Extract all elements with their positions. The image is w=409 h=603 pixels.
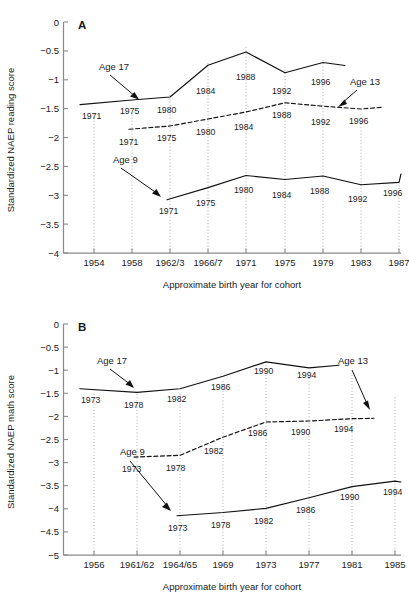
panel-a-label-age13: Age 13	[350, 76, 380, 87]
panel-b-ytick-3: −1.5	[40, 388, 59, 399]
panel-b-xtick-6: 1981	[341, 559, 362, 570]
panel-a-age9-label-4: 1988	[310, 186, 329, 196]
panel-b-series-age9	[177, 481, 401, 516]
panel-a-age13-label-3: 1984	[234, 122, 253, 132]
panel-a-x-ticks: 1954 1958 1962/3 1966/7 1971 1975 1979 1…	[83, 249, 409, 269]
panel-a-age13-label-4: 1988	[272, 110, 291, 120]
panel-b-ytick-9: −4.5	[40, 526, 59, 537]
panel-b-ytick-2: −1	[48, 365, 59, 376]
panel-a: Standardized NAEP reading score A 0 −0.5…	[0, 0, 409, 301]
panel-b-age17-label-3: 1986	[211, 382, 230, 392]
panel-a-pointlabels-age9: 1971 1975 1980 1984 1988 1992 1996	[159, 185, 402, 216]
panel-a-age9-label-3: 1984	[272, 190, 291, 200]
panel-b-xtick-7: 1985	[384, 559, 405, 570]
panel-a-age13-label-1: 1975	[157, 133, 176, 143]
panel-b-pointlabels-age9: 1973 1978 1982 1986 1990 1994	[168, 487, 402, 533]
panel-a-ytick-1: −0.5	[40, 45, 59, 56]
panel-b-xtick-2: 1964/65	[163, 559, 197, 570]
panel-b-ytick-10: −5	[48, 550, 59, 561]
panel-b-svg: Standardized NAEP math score B 0	[0, 302, 409, 603]
panel-a-xtick-8: 1987	[388, 257, 409, 268]
panel-a-label-age9: Age 9	[113, 154, 138, 165]
panel-a-age9-label-2: 1980	[234, 185, 253, 195]
panel-a-y-axis-title: Standardized NAEP reading score	[5, 68, 16, 213]
panel-b-age17-label-2: 1982	[167, 394, 186, 404]
panel-b-age17-label-4: 1990	[254, 366, 273, 376]
panel-a-age17-label-4: 1988	[236, 72, 255, 82]
panel-b: Standardized NAEP math score B 0	[0, 302, 409, 603]
panel-a-letter: A	[78, 19, 86, 31]
panel-b-xtick-0: 1956	[83, 559, 104, 570]
panel-a-age13-label-2: 1980	[196, 127, 215, 137]
panel-b-age9-label-3: 1986	[296, 505, 315, 515]
panel-a-age9-label-1: 1975	[196, 198, 215, 208]
panel-b-ytick-0: 0	[54, 319, 59, 330]
panel-b-age9-label-5: 1994	[383, 487, 402, 497]
panel-b-age13-label-2: 1982	[204, 446, 223, 456]
panel-b-pointlabels-age17: 1973 1978 1982 1986 1990 1994	[81, 366, 316, 410]
panel-a-xtick-7: 1983	[350, 257, 371, 268]
panel-b-age13-label-4: 1990	[291, 427, 310, 437]
panel-a-age17-label-1: 1975	[120, 106, 139, 116]
panel-b-age13-label-5: 1994	[334, 424, 353, 434]
panel-a-age13-label-5: 1992	[311, 117, 330, 127]
panel-a-xtick-4: 1971	[235, 257, 256, 268]
panel-a-ytick-6: −3	[48, 190, 59, 201]
panel-b-ytick-6: −3	[48, 457, 59, 468]
panel-b-age17-label-1: 1978	[124, 400, 143, 410]
panel-b-age9-label-0: 1973	[168, 523, 187, 533]
panel-b-label-age13: Age 13	[338, 355, 368, 366]
panel-a-ytick-3: −1.5	[40, 103, 59, 114]
panel-b-ytick-1: −0.5	[40, 342, 59, 353]
panel-a-xtick-1: 1958	[121, 257, 142, 268]
panel-a-xtick-3: 1966/7	[193, 257, 222, 268]
panel-b-label-age9: Age 9	[120, 446, 145, 457]
panel-a-ytick-0: 0	[54, 17, 59, 28]
panel-a-age17-label-0: 1971	[82, 111, 101, 121]
panel-a-age17-label-2: 1980	[157, 105, 176, 115]
panel-b-age13-label-0: 1973	[122, 464, 141, 474]
panel-a-label-age17: Age 17	[99, 61, 129, 72]
panel-a-annotation-age17: Age 17	[99, 61, 139, 100]
panel-a-ytick-5: −2.5	[40, 161, 59, 172]
panel-b-age9-label-1: 1978	[211, 520, 230, 530]
panel-a-age17-label-6: 1996	[311, 77, 330, 87]
panel-a-svg: Standardized NAEP reading score A 0 −0.5…	[0, 0, 409, 301]
panel-a-xtick-5: 1975	[274, 257, 295, 268]
panel-a-pointlabels-age17: 1971 1975 1980 1984 1988 1992 1996	[82, 72, 330, 121]
panel-a-annotation-age13: Age 13	[338, 76, 380, 107]
panel-a-series-age17	[80, 52, 345, 105]
panel-a-x-axis-title: Approximate birth year for cohort	[163, 279, 302, 290]
panel-a-pointlabels-age13: 1971 1975 1980 1984 1988 1992 1996	[119, 110, 368, 147]
panel-b-ytick-8: −4	[48, 503, 59, 514]
panel-b-x-ticks: 1956 1961/62 1964/65 1969 1973 1977 1981…	[83, 551, 405, 571]
panel-b-age9-label-4: 1990	[340, 492, 359, 502]
panel-b-annotation-age13: Age 13	[338, 355, 370, 410]
panel-a-xtick-2: 1962/3	[155, 257, 184, 268]
panel-a-annotation-age9: Age 9	[113, 154, 161, 197]
panel-a-xtick-6: 1979	[312, 257, 333, 268]
panel-b-ytick-4: −2	[48, 411, 59, 422]
panel-b-age13-label-1: 1978	[166, 463, 185, 473]
panel-b-ytick-5: −2.5	[40, 434, 59, 445]
panel-a-age9-label-5: 1992	[348, 194, 367, 204]
panel-b-xtick-4: 1973	[255, 559, 276, 570]
panel-b-age17-label-5: 1994	[297, 370, 316, 380]
panel-b-age13-label-3: 1986	[248, 428, 267, 438]
panel-b-age17-label-0: 1973	[81, 395, 100, 405]
panel-b-x-axis-title: Approximate birth year for cohort	[163, 581, 302, 592]
panel-a-ytick-4: −2	[48, 132, 59, 143]
panel-a-xtick-0: 1954	[83, 257, 104, 268]
panel-a-ytick-8: −4	[48, 248, 59, 259]
panel-b-letter: B	[78, 321, 86, 333]
panel-b-xtick-5: 1977	[298, 559, 319, 570]
panel-a-age17-label-5: 1992	[272, 86, 291, 96]
panel-a-age9-label-0: 1971	[159, 206, 178, 216]
panel-a-age13-label-6: 1996	[349, 116, 368, 126]
panel-a-ytick-2: −1	[48, 74, 59, 85]
panel-b-y-axis-title: Standardized NAEP math score	[5, 375, 16, 509]
panel-a-age9-label-6: 1996	[383, 188, 402, 198]
panel-b-xtick-1: 1961/62	[120, 559, 154, 570]
panel-b-label-age17: Age 17	[97, 355, 127, 366]
panel-a-age13-label-0: 1971	[119, 137, 138, 147]
